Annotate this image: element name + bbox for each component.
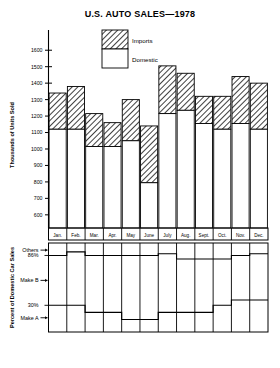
- lower-tick-label: 86%: [28, 252, 39, 258]
- y-axis-title: Thousands of Units Sold: [9, 101, 15, 167]
- month-label: Jan.: [53, 233, 62, 238]
- y-axis-tick-label: 900: [34, 162, 43, 168]
- bar-segment-imports: [159, 66, 176, 114]
- month-label: Sept.: [199, 233, 210, 238]
- auto-sales-figure: 6007008009001000110012001300140015001600…: [0, 0, 280, 368]
- bar-segment-imports: [177, 73, 194, 110]
- bar-group: [49, 93, 66, 228]
- y-axis-tick-label: 1300: [31, 97, 43, 103]
- bar-segment-imports: [122, 100, 139, 141]
- bar-group: [104, 123, 121, 228]
- bar-segment-domestic: [177, 110, 194, 228]
- lower-tick-label: 30%: [28, 302, 39, 308]
- bar-group: [141, 126, 158, 228]
- bar-group: [122, 100, 139, 228]
- bar-segment-imports: [141, 126, 158, 183]
- bar-segment-domestic: [49, 129, 66, 228]
- legend-swatch-imports: [102, 30, 128, 49]
- bar-segment-imports: [232, 77, 249, 124]
- legend-swatch-domestic: [102, 49, 128, 68]
- month-label: Nov.: [236, 233, 245, 238]
- bar-segment-domestic: [104, 147, 121, 228]
- bar-segment-domestic: [159, 114, 176, 228]
- month-label: Apr.: [108, 233, 116, 238]
- month-label: Oct.: [218, 233, 226, 238]
- bar-segment-imports: [195, 96, 212, 123]
- y-axis-tick-label: 800: [34, 179, 43, 185]
- bar-segment-imports: [250, 83, 267, 129]
- y-axis-tick-label: 1500: [31, 64, 43, 70]
- y-axis-tick-label: 1600: [31, 47, 43, 53]
- lower-tick-label: Make B: [20, 277, 39, 283]
- month-label: Dec.: [254, 233, 263, 238]
- lower-tick-label: Make A: [21, 315, 39, 321]
- bar-segment-domestic: [86, 147, 103, 228]
- month-label: Feb.: [71, 233, 80, 238]
- lower-panel-percent-domestic: Percent of Domestic Car SalesOthers86%Ma…: [9, 243, 268, 332]
- y-axis-tick-label: 1200: [31, 113, 43, 119]
- bar-group: [86, 114, 103, 228]
- bar-segment-domestic: [195, 123, 212, 228]
- legend-label-domestic: Domestic: [132, 56, 158, 63]
- bar-segment-imports: [67, 86, 84, 129]
- lower-tick-arrowhead: [45, 249, 47, 252]
- bar-segment-domestic: [141, 183, 158, 228]
- bar-segment-imports: [214, 96, 231, 129]
- lower-tick-arrowhead: [45, 279, 47, 282]
- y-axis-tick-label: 1100: [31, 129, 42, 135]
- bar-group: [195, 96, 212, 228]
- bar-group: [214, 96, 231, 228]
- chart-container: U.S. AUTO SALES—1978 6007008009001000110…: [0, 0, 280, 368]
- month-label: May: [126, 233, 135, 238]
- bar-group: [159, 66, 176, 228]
- bar-segment-domestic: [232, 123, 249, 228]
- month-label: Mar.: [90, 233, 99, 238]
- chart-legend: ImportsDomestic: [102, 30, 158, 68]
- month-label: July: [163, 233, 172, 238]
- lower-tick-arrowhead: [45, 316, 47, 319]
- lower-y-axis-title: Percent of Domestic Car Sales: [9, 247, 15, 328]
- bar-group: [177, 73, 194, 228]
- bar-segment-imports: [104, 123, 121, 147]
- bar-group: [232, 77, 249, 228]
- y-axis-tick-label: 1400: [31, 80, 43, 86]
- bar-segment-domestic: [67, 129, 84, 228]
- legend-label-imports: Imports: [132, 37, 153, 44]
- month-label: Aug.: [181, 233, 190, 238]
- bar-segment-domestic: [250, 129, 267, 228]
- bar-segment-imports: [49, 93, 66, 129]
- bar-segment-domestic: [214, 129, 231, 228]
- bar-segment-domestic: [122, 141, 139, 228]
- y-axis-tick-label: 1000: [31, 146, 43, 152]
- y-axis-tick-label: 700: [34, 195, 43, 201]
- bar-group: [250, 83, 267, 228]
- bar-segment-imports: [86, 114, 103, 147]
- month-label: June: [144, 233, 154, 238]
- bar-group: [67, 86, 84, 228]
- y-axis-tick-label: 600: [34, 212, 43, 218]
- chart-title: U.S. AUTO SALES—1978: [0, 9, 280, 19]
